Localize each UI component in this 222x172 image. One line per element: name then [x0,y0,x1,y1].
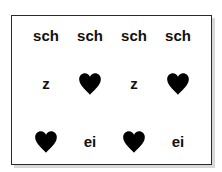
grid-cell-text: ei [156,133,200,151]
grid-cell-text: sch [68,27,112,45]
heart-icon [77,71,103,97]
grid-cell-text: sch [156,27,200,45]
heart-icon [121,129,147,155]
grid-cell-text: z [112,75,156,93]
card-frame: sch sch sch sch z z ei ei [11,15,212,165]
heart-icon [33,129,59,155]
grid-cell-text: ei [68,133,112,151]
grid-cell-text: sch [24,27,68,45]
grid-cell-text: sch [112,27,156,45]
grid-cell-text: z [24,75,68,93]
heart-icon [165,71,191,97]
